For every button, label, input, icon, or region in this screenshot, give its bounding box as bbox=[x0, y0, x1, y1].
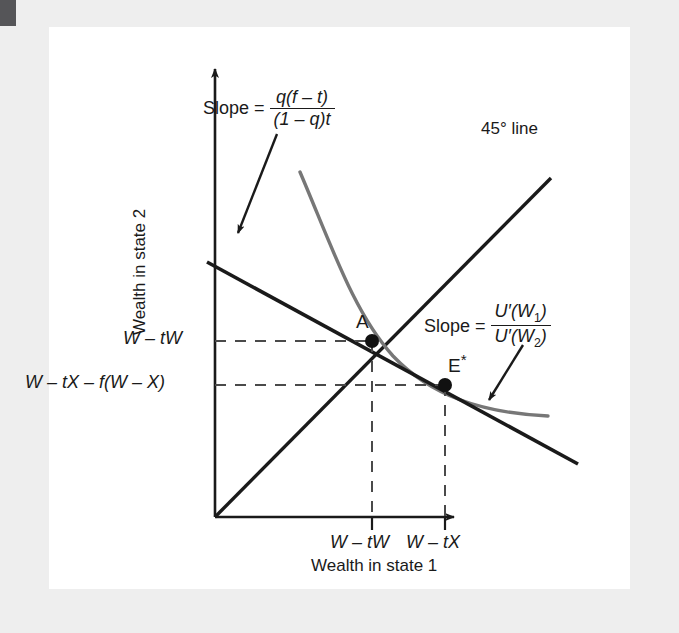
page-corner-marker bbox=[0, 0, 16, 26]
slope-budget-arrow bbox=[238, 134, 277, 233]
slope-indifference-annotation: Slope = U′(W1) U′(W2) bbox=[424, 303, 551, 351]
slope-indifference-fraction: U′(W1) U′(W2) bbox=[491, 302, 551, 350]
slope-budget-numerator: q(f – t) bbox=[270, 88, 335, 109]
point-estar-label: E* bbox=[448, 352, 467, 376]
slope-budget-fraction: q(f – t) (1 – q)t bbox=[270, 88, 335, 129]
x-tick-label-1: W – tW bbox=[330, 533, 389, 552]
slope-budget-prefix: Slope = bbox=[203, 98, 265, 118]
slope-budget-denominator: (1 – q)t bbox=[270, 109, 335, 129]
figure-plate: Wealth in state 2 Wealth in state 1 W – … bbox=[49, 27, 630, 589]
budget-line bbox=[207, 262, 578, 464]
point-a-label: A bbox=[356, 312, 369, 332]
slope-indifference-numerator: U′(W1) bbox=[491, 302, 551, 326]
slope-indifference-arrow bbox=[489, 345, 523, 400]
slope-budget-annotation: Slope = q(f – t) (1 – q)t bbox=[203, 89, 335, 130]
slope-indifference-denominator: U′(W2) bbox=[491, 326, 551, 349]
figure-page: Wealth in state 2 Wealth in state 1 W – … bbox=[0, 0, 679, 633]
y-tick-label-1: W – tW bbox=[123, 329, 182, 348]
x-tick-label-2: W – tX bbox=[406, 533, 460, 552]
y-tick-label-2: W – tX – f(W – X) bbox=[25, 373, 165, 392]
point-estar-marker bbox=[438, 378, 452, 392]
forty-five-degree-line-label: 45° line bbox=[481, 120, 538, 138]
slope-indifference-prefix: Slope = bbox=[424, 316, 486, 336]
point-a-marker bbox=[365, 334, 379, 348]
x-axis-title: Wealth in state 1 bbox=[311, 557, 437, 575]
point-estar-superscript: * bbox=[461, 351, 467, 368]
